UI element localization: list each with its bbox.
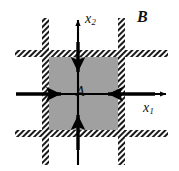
axis-label-x1: x1 [143,101,154,116]
hatch-band-horizontal-bottom [15,130,168,137]
region-b-label: B [137,9,148,25]
axis-label-x2-base: x [85,11,91,26]
hatch-band-horizontal-top [15,50,168,57]
axis-label-x1-subscript: 1 [150,106,154,116]
axis-label-x1-base: x [143,100,149,115]
axis-label-x2: x2 [85,12,96,27]
axis-label-x2-subscript: 2 [92,17,96,27]
hatch-band-vertical-right [118,18,125,165]
diagram-canvas: B A x2 x1 [0,0,179,171]
region-a-label: A [76,85,85,99]
hatch-band-vertical-left [42,18,49,165]
